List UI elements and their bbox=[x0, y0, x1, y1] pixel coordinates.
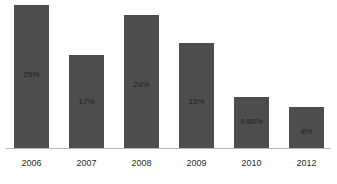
bar-value-label-2009: 15% bbox=[179, 97, 214, 106]
x-axis-tick-2010: 2010 bbox=[234, 158, 269, 168]
x-axis-tick-2009: 2009 bbox=[179, 158, 214, 168]
bar-value-label-2006: 26% bbox=[14, 70, 49, 79]
bar-value-label-2012: 8% bbox=[289, 127, 324, 136]
bar-value-label-2007: 17% bbox=[69, 97, 104, 106]
x-axis-tick-2008: 2008 bbox=[124, 158, 159, 168]
bar-value-label-2008: 24% bbox=[124, 80, 159, 89]
x-axis-tick-2007: 2007 bbox=[69, 158, 104, 168]
bar-chart: 26% 17% 24% 15% 9.80% 8% 2006 2007 2008 … bbox=[0, 0, 337, 184]
bar-2009 bbox=[179, 43, 214, 148]
plot-area: 26% 17% 24% 15% 9.80% 8% bbox=[0, 0, 337, 149]
x-axis-tick-2006: 2006 bbox=[14, 158, 49, 168]
x-axis-line bbox=[6, 148, 331, 149]
bar-value-label-2010: 9.80% bbox=[232, 117, 271, 126]
x-axis-tick-2012: 2012 bbox=[289, 158, 324, 168]
